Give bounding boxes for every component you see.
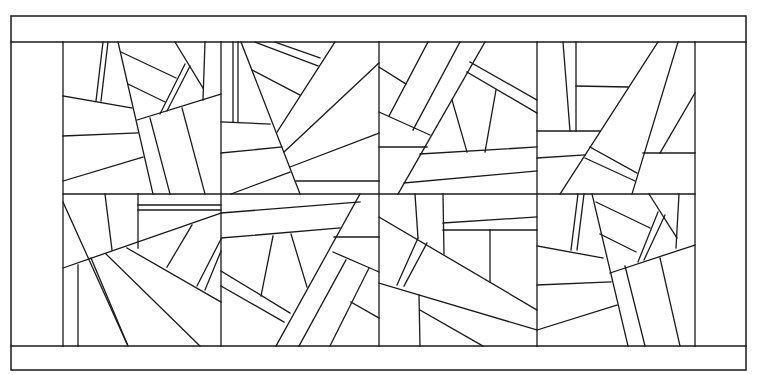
block-r2-c2	[221, 194, 379, 346]
block-r2-c3	[379, 194, 537, 346]
quilt-pattern-drawing	[0, 0, 762, 375]
frame	[11, 16, 746, 370]
block-r1-c2	[221, 42, 379, 194]
block-r1-c4	[537, 42, 695, 194]
block-r2-c4	[537, 194, 695, 346]
block-r2-c1	[63, 194, 221, 346]
pattern-svg	[0, 0, 762, 375]
block-r1-c3	[379, 42, 537, 194]
block-r1-c1	[63, 42, 221, 194]
